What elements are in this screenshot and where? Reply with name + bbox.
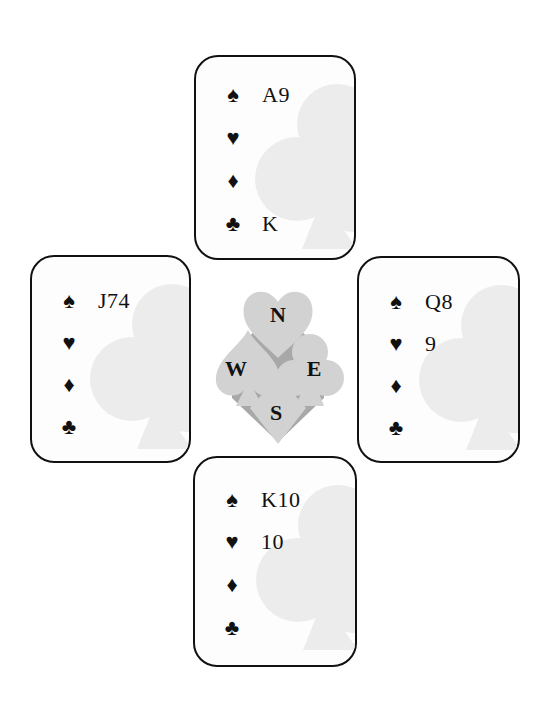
spade-icon: ♠	[58, 290, 80, 312]
north-clubs-holding: K	[262, 213, 278, 235]
east-clubs-row: ♣	[385, 412, 425, 444]
compass-north-label: N	[270, 302, 286, 327]
east-diamonds-row: ♦	[385, 370, 425, 402]
diamond-icon: ♦	[385, 375, 407, 397]
south-spades-holding: K10	[261, 489, 300, 511]
club-icon: ♣	[222, 213, 244, 235]
west-spades-row: ♠ J74	[58, 285, 130, 317]
diamond-icon: ♦	[221, 574, 243, 596]
heart-icon: ♥	[385, 333, 407, 355]
heart-icon: ♥	[58, 332, 80, 354]
club-icon: ♣	[58, 416, 80, 438]
west-hand-card: ♠ J74 ♥ ♦ ♣	[30, 255, 191, 463]
north-hand-card: ♠ A9 ♥ ♦ ♣ K	[194, 55, 356, 260]
compass-east-label: E	[307, 356, 322, 381]
east-spades-holding: Q8	[425, 291, 453, 313]
west-clubs-row: ♣	[58, 411, 98, 443]
compass-west-label: W	[225, 356, 247, 381]
spade-icon: ♠	[222, 84, 244, 106]
north-clubs-row: ♣ K	[222, 208, 278, 240]
west-spades-holding: J74	[98, 290, 130, 312]
diamond-icon: ♦	[222, 170, 244, 192]
north-hearts-row: ♥	[222, 122, 262, 154]
spade-icon: ♠	[385, 291, 407, 313]
diamond-icon: ♦	[58, 374, 80, 396]
east-hearts-row: ♥ 9	[385, 328, 437, 360]
west-hearts-row: ♥	[58, 327, 98, 359]
east-hearts-holding: 9	[425, 333, 437, 355]
north-spades-row: ♠ A9	[222, 79, 290, 111]
compass-rose: N W E S	[210, 280, 346, 446]
south-hearts-row: ♥ 10	[221, 526, 284, 558]
north-diamonds-row: ♦	[222, 165, 262, 197]
club-icon: ♣	[385, 417, 407, 439]
west-diamonds-row: ♦	[58, 369, 98, 401]
south-hand-card: ♠ K10 ♥ 10 ♦ ♣	[193, 456, 357, 667]
south-spades-row: ♠ K10	[221, 484, 300, 516]
heart-icon: ♥	[222, 127, 244, 149]
club-icon: ♣	[221, 617, 243, 639]
spade-icon: ♠	[221, 489, 243, 511]
heart-icon: ♥	[221, 531, 243, 553]
north-spades-holding: A9	[262, 84, 290, 106]
east-spades-row: ♠ Q8	[385, 286, 453, 318]
compass-south-label: S	[270, 400, 282, 425]
east-hand-card: ♠ Q8 ♥ 9 ♦ ♣	[357, 256, 520, 463]
south-clubs-row: ♣	[221, 612, 261, 644]
south-hearts-holding: 10	[261, 531, 284, 553]
south-diamonds-row: ♦	[221, 569, 261, 601]
